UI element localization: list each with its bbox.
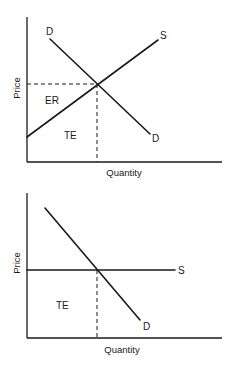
top-region-te: TE bbox=[64, 130, 77, 141]
top-x-axis-label: Quantity bbox=[106, 167, 142, 178]
top-demand-curve bbox=[50, 39, 150, 134]
bottom-region-te: TE bbox=[56, 300, 69, 311]
top-diagram: D S D ER TE Quantity Price bbox=[11, 17, 222, 178]
top-demand-label-end: D bbox=[152, 133, 159, 144]
top-supply-label: S bbox=[160, 30, 167, 41]
supply-demand-diagrams: D S D ER TE Quantity Price S D TE Quanti… bbox=[0, 0, 233, 365]
top-region-er: ER bbox=[45, 95, 59, 106]
bottom-x-axis-label: Quantity bbox=[104, 344, 140, 355]
bottom-y-axis-label: Price bbox=[11, 252, 22, 274]
top-demand-label-start: D bbox=[46, 26, 53, 37]
bottom-supply-label: S bbox=[178, 265, 185, 276]
bottom-diagram: S D TE Quantity Price bbox=[11, 193, 222, 355]
bottom-demand-label: D bbox=[143, 321, 150, 332]
top-y-axis-label: Price bbox=[11, 77, 22, 99]
